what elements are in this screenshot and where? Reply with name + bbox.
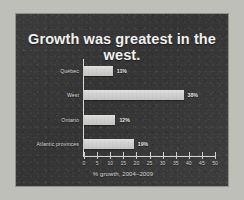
- category-label-row: West: [30, 83, 83, 107]
- x-tick-label: 5: [96, 160, 99, 166]
- x-tick-label: 35: [173, 160, 179, 166]
- x-tick-label: 30: [160, 160, 166, 166]
- x-tick-label: 0: [83, 160, 86, 166]
- slide-canvas: Growth was greatest in the west. QuébecW…: [16, 14, 228, 186]
- x-tick: [136, 152, 137, 159]
- x-axis-title: % growth, 2004–2009: [30, 171, 216, 177]
- bar: [84, 115, 115, 125]
- bar-chart: QuébecWestOntarioAtlantic provinces 11%3…: [30, 59, 216, 177]
- bar-value-label: 19%: [138, 141, 148, 147]
- category-label: West: [67, 92, 83, 98]
- x-tick: [215, 152, 216, 159]
- slide-frame: Growth was greatest in the west. QuébecW…: [0, 0, 244, 200]
- x-tick-label: 10: [107, 160, 113, 166]
- bar-value-label: 11%: [117, 68, 127, 74]
- bar: [84, 90, 184, 100]
- x-tick: [176, 152, 177, 159]
- x-axis-tick-labels: 05101520253035404550: [84, 160, 216, 169]
- x-tick-label: 15: [121, 160, 127, 166]
- x-tick: [202, 152, 203, 159]
- x-tick-label: 50: [212, 160, 218, 166]
- x-tick-label: 45: [199, 160, 205, 166]
- category-label-row: Québec: [30, 59, 83, 83]
- x-axis-ticks: [84, 152, 216, 160]
- x-tick: [110, 152, 111, 159]
- category-label: Atlantic provinces: [37, 141, 83, 147]
- x-tick-label: 25: [147, 160, 153, 166]
- category-label: Québec: [60, 68, 83, 74]
- category-label: Ontario: [61, 117, 83, 123]
- category-axis-labels: QuébecWestOntarioAtlantic provinces: [30, 59, 83, 156]
- bar-row: 11%: [84, 59, 216, 83]
- category-label-row: Atlantic provinces: [30, 132, 83, 156]
- bar-value-label: 12%: [119, 117, 129, 123]
- x-tick: [97, 152, 98, 159]
- x-tick: [123, 152, 124, 159]
- x-tick-label: 40: [186, 160, 192, 166]
- x-tick: [189, 152, 190, 159]
- bars-area: 11%38%12%19%: [84, 59, 216, 156]
- category-label-row: Ontario: [30, 108, 83, 132]
- bar-row: 38%: [84, 83, 216, 107]
- x-tick-label: 20: [134, 160, 140, 166]
- x-tick: [163, 152, 164, 159]
- bar-value-label: 38%: [188, 92, 198, 98]
- x-tick: [84, 152, 85, 159]
- x-tick: [150, 152, 151, 159]
- bar-row: 12%: [84, 108, 216, 132]
- bar: [84, 66, 113, 76]
- bar: [84, 139, 134, 149]
